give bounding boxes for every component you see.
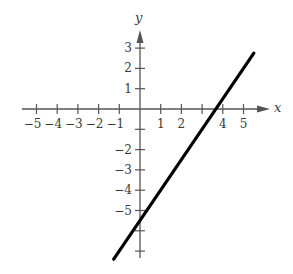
y-tick-label: −2 [114, 143, 132, 157]
x-axis-arrow-icon [257, 106, 270, 113]
axes [22, 30, 270, 258]
x-tick-label: 5 [240, 117, 248, 131]
x-tick-label: −1 [106, 117, 124, 131]
x-tick-label: −4 [44, 117, 62, 131]
x-tick-label: 1 [157, 117, 165, 131]
x-tick-label: −2 [86, 117, 104, 131]
plotted-line [114, 53, 254, 259]
x-tick-label: −3 [65, 117, 83, 131]
x-tick-label: 2 [178, 117, 186, 131]
y-axis-arrow-icon [137, 30, 144, 43]
y-tick-label: −4 [114, 183, 132, 197]
y-tick-label: −3 [114, 163, 132, 177]
y-tick-label: 1 [124, 82, 132, 96]
coordinate-plane: −5−4−3−2−11245321−2−3−4−5 x y [0, 0, 293, 274]
y-axis-label: y [134, 10, 143, 25]
x-tick-label: 4 [219, 117, 227, 131]
y-tick-label: −5 [114, 204, 132, 218]
x-tick-label: −5 [24, 117, 42, 131]
y-tick-label: 2 [124, 61, 132, 75]
y-tick-label: 3 [124, 41, 132, 55]
x-axis-label: x [274, 100, 282, 115]
data-line [114, 53, 254, 259]
